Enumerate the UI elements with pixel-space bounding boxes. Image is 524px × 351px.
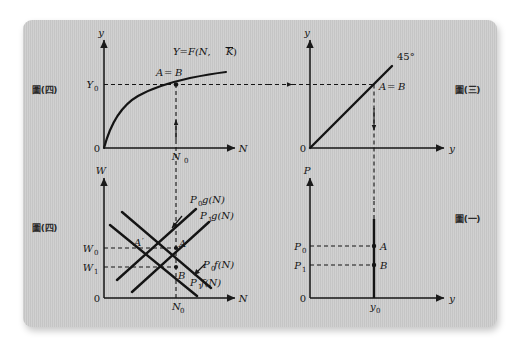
origin-label-bottomleft: 0 bbox=[94, 293, 100, 304]
tick-label-N0-bottomleft-sub: 0 bbox=[180, 307, 184, 315]
origin-label-bottomright: 0 bbox=[300, 293, 306, 304]
tick-label-P1-sub: 1 bbox=[302, 266, 306, 274]
axis-label-w-bottomleft: W bbox=[96, 165, 107, 176]
line-45-degree bbox=[310, 66, 392, 148]
curve-production-function bbox=[104, 72, 226, 148]
tick-label-y0-bottomright-sub: 0 bbox=[376, 307, 380, 315]
annotation-P0gN: P bbox=[189, 194, 197, 205]
tick-label-N0-topleft: N bbox=[171, 151, 182, 162]
annotation-P0gN-rest: g(N) bbox=[202, 194, 225, 205]
tick-label-y0-bottomright: y bbox=[369, 301, 376, 312]
axis-label-y-vert-topright: y bbox=[303, 27, 310, 38]
panel-bottom-left: W N 0 P 0 g(N) P 1 g(N) P 0 f(N) P bbox=[83, 165, 249, 315]
point-label-AeqB-topleft: A bbox=[155, 67, 163, 78]
axis-label-n-topleft: N bbox=[238, 143, 249, 154]
annotation-P1gN: P bbox=[199, 210, 207, 221]
panel-label-top-left: 圖(四) bbox=[32, 83, 57, 96]
annotation-P0fN: P bbox=[202, 259, 210, 270]
axis-label-p-bottomright: P bbox=[303, 165, 311, 176]
panel-top-left: y N 0 A = B Y 0 N 0 bbox=[86, 27, 292, 200]
annotation-production-function: Y=F(N, bbox=[173, 46, 211, 57]
panel-label-bottom-right: 圖(一) bbox=[455, 212, 480, 225]
annotation-P1fN-rest: f(N) bbox=[200, 277, 221, 288]
point-label-Aprime-prime: ′ bbox=[142, 236, 144, 245]
axis-label-y-topleft: y bbox=[97, 27, 104, 38]
screenshot-root: y N 0 A = B Y 0 N 0 bbox=[0, 0, 524, 351]
axis-label-n-bottomleft: N bbox=[238, 293, 249, 304]
tick-label-W1-sub: 1 bbox=[94, 268, 98, 276]
annotation-P1fN: P bbox=[189, 277, 197, 288]
point-label-Aprime-bottomleft: A bbox=[133, 237, 141, 248]
axis-label-y-bottomright: y bbox=[448, 293, 455, 304]
point-marker-AeqB-topleft bbox=[174, 82, 179, 87]
point-label-AeqB-b-topleft: B bbox=[174, 67, 182, 78]
point-label-AeqB-topright-eq: = bbox=[387, 81, 395, 92]
point-marker-A-bottomright bbox=[372, 244, 376, 248]
figure-drawing: y N 0 A = B Y 0 N 0 bbox=[0, 0, 524, 351]
axis-label-y-horiz-topright: y bbox=[448, 143, 455, 154]
point-label-AeqB-eq-topleft: = bbox=[164, 67, 172, 78]
point-label-AeqB-topright-b: B bbox=[397, 81, 405, 92]
annotation-P1gN-rest: g(N) bbox=[211, 210, 234, 221]
tick-label-W0: W bbox=[83, 243, 94, 254]
tick-label-P0: P bbox=[293, 241, 301, 252]
point-label-B-bottomleft: B bbox=[177, 270, 185, 281]
point-marker-A-bottomleft bbox=[174, 246, 178, 250]
panel-label-top-right: 圖(三) bbox=[455, 83, 480, 96]
origin-label-topleft: 0 bbox=[94, 143, 100, 154]
annotation-P0fN-rest: f(N) bbox=[213, 259, 234, 270]
point-label-A-bottomleft: A bbox=[178, 238, 186, 249]
point-label-AeqB-topright-a: A bbox=[378, 81, 386, 92]
annotation-production-function-close: ) bbox=[233, 46, 237, 57]
curve-P0fN bbox=[122, 212, 211, 288]
tick-label-W1: W bbox=[83, 262, 94, 273]
tick-label-W0-sub: 0 bbox=[94, 249, 98, 257]
panel-label-bottom-left: 圖(四) bbox=[32, 221, 57, 234]
point-marker-B-bottomright bbox=[372, 263, 376, 267]
tick-label-P0-sub: 0 bbox=[302, 247, 306, 255]
annotation-45-degree: 45° bbox=[397, 51, 415, 62]
point-label-B-bottomright: B bbox=[379, 260, 387, 271]
origin-label-topright: 0 bbox=[300, 143, 306, 154]
point-label-A-bottomright: A bbox=[379, 241, 387, 252]
point-marker-B-bottomleft bbox=[174, 265, 178, 269]
curve-P1fN bbox=[110, 225, 197, 296]
tick-label-N0-topleft-sub: 0 bbox=[184, 157, 188, 165]
tick-label-Y0-sub: 0 bbox=[94, 85, 98, 93]
panel-bottom-right: P y 0 A B P 0 P 1 y 0 bbox=[293, 165, 455, 315]
tick-label-P1: P bbox=[293, 260, 301, 271]
panel-top-right: y y 0 45° A = B bbox=[292, 27, 455, 200]
